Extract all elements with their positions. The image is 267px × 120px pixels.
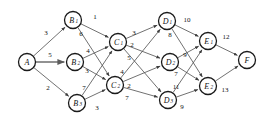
node-label-E2: E bbox=[203, 82, 209, 91]
edge-weight-C1-D1: 3 bbox=[132, 29, 136, 37]
node-subscript-E1: 1 bbox=[211, 39, 214, 45]
node-subscript-C1: 1 bbox=[121, 40, 124, 46]
edge-weight-D1-E2: 8 bbox=[168, 31, 172, 39]
node-label-F: F bbox=[244, 56, 250, 65]
edge-E1-F bbox=[216, 45, 237, 55]
node-label-E1: E bbox=[203, 37, 209, 46]
edge-weight-D2-E1: 9 bbox=[183, 51, 187, 59]
edge-A-B3 bbox=[34, 68, 69, 97]
edge-D1-E1 bbox=[175, 25, 198, 36]
edge-weight-A-B1: 3 bbox=[44, 29, 48, 37]
node-B2[interactable]: B2 bbox=[67, 54, 84, 71]
graph-canvas: AB1B2B3C1C2D1D2D3E1E2F 35216437332542710… bbox=[0, 0, 267, 120]
node-label-B1: B bbox=[69, 16, 74, 25]
edge-D2-E2 bbox=[178, 67, 199, 80]
edge-weight-B2-C1: 4 bbox=[86, 47, 90, 55]
edge-weight-E1-F: 12 bbox=[223, 33, 231, 41]
edge-weight-D1-E1: 10 bbox=[184, 16, 192, 24]
node-subscript-E2: 2 bbox=[211, 84, 214, 90]
edge-D3-E2 bbox=[176, 90, 197, 98]
node-subscript-C2: 2 bbox=[118, 83, 121, 89]
node-subscript-B1: 1 bbox=[76, 18, 79, 24]
edge-weight-E2-F: 13 bbox=[222, 86, 230, 94]
edge-weight-B2-C2: 3 bbox=[85, 67, 89, 75]
node-D1[interactable]: D1 bbox=[159, 13, 176, 30]
edge-B3-C2 bbox=[85, 90, 105, 100]
node-C1[interactable]: C1 bbox=[110, 34, 127, 51]
edge-weight-C2-D3: 7 bbox=[125, 94, 129, 102]
node-label-B2: B bbox=[71, 58, 76, 67]
edge-B1-C1 bbox=[81, 24, 108, 37]
node-subscript-B3: 3 bbox=[80, 101, 83, 107]
node-E1[interactable]: E1 bbox=[200, 33, 217, 50]
edge-E2-F bbox=[215, 66, 238, 81]
edge-weight-B3-C2: 3 bbox=[95, 104, 99, 112]
node-subscript-D2: 2 bbox=[173, 60, 176, 66]
edge-D2-E1 bbox=[178, 46, 199, 57]
node-B1[interactable]: B1 bbox=[65, 12, 82, 29]
node-C2[interactable]: C2 bbox=[107, 77, 124, 94]
edge-weight-B1-C2: 6 bbox=[79, 30, 83, 38]
node-subscript-D3: 3 bbox=[171, 98, 174, 104]
edge-C1-D1 bbox=[126, 25, 157, 38]
node-subscript-D1: 1 bbox=[170, 19, 173, 25]
node-A[interactable]: A bbox=[19, 54, 36, 71]
edge-weight-C2-D1: 4 bbox=[120, 68, 124, 76]
edge-weight-C1-D3: 5 bbox=[127, 54, 131, 62]
edge-weight-C1-D2: 2 bbox=[130, 41, 134, 49]
edge-weight-D3-E2: 9 bbox=[180, 103, 184, 111]
node-D2[interactable]: D2 bbox=[162, 54, 179, 71]
node-label-C1: C bbox=[114, 38, 120, 47]
node-E2[interactable]: E2 bbox=[200, 78, 217, 95]
node-label-C2: C bbox=[111, 81, 117, 90]
node-label-D2: D bbox=[165, 58, 172, 67]
node-B3[interactable]: B3 bbox=[69, 95, 86, 112]
node-label-D3: D bbox=[163, 96, 170, 105]
edge-weight-C2-D2: 2 bbox=[127, 82, 131, 90]
node-F[interactable]: F bbox=[239, 52, 256, 69]
edge-weight-D3-E1: 11 bbox=[173, 83, 180, 91]
network-diagram: AB1B2B3C1C2D1D2D3E1E2F 35216437332542710… bbox=[0, 0, 267, 120]
node-subscript-B2: 2 bbox=[78, 60, 81, 66]
edge-weight-B1-C1: 1 bbox=[93, 13, 97, 21]
edge-weight-B3-C1: 7 bbox=[82, 84, 86, 92]
node-label-B3: B bbox=[73, 99, 78, 108]
node-D3[interactable]: D3 bbox=[160, 92, 177, 109]
node-label-D1: D bbox=[162, 17, 169, 26]
edge-weight-D2-E2: 7 bbox=[174, 70, 178, 78]
edge-weight-A-B2: 5 bbox=[48, 51, 52, 59]
node-label-A: A bbox=[24, 58, 30, 67]
edge-weight-A-B3: 2 bbox=[46, 84, 50, 92]
